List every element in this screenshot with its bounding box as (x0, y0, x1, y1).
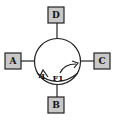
port-label-a: A (9, 56, 18, 66)
port-label-c: C (98, 56, 105, 66)
port-box-b: B (48, 97, 64, 113)
port-label-d: D (52, 10, 60, 20)
port-label-b: B (52, 100, 60, 110)
center-label: F1 (52, 73, 63, 83)
marker-label: 1 (40, 71, 46, 81)
four-port-valve-diagram: 1 F1 D A C B (0, 0, 121, 124)
port-box-d: D (48, 7, 64, 23)
rotation-arrow-icon (60, 64, 76, 73)
port-box-a: A (5, 53, 21, 69)
port-box-c: C (94, 53, 110, 69)
